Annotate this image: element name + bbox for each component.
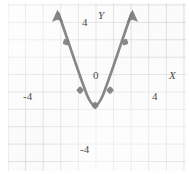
origin-label: 0	[93, 70, 99, 81]
y-tick-label-positive-four: 4	[82, 17, 88, 28]
left-arrowhead-icon	[52, 10, 63, 23]
x-tick-label-negative-four: -4	[23, 91, 32, 102]
graph-figure: Y X 4 0 -4 4 -4	[0, 0, 189, 174]
x-axis-label: X	[169, 70, 176, 81]
y-axis-label: Y	[98, 10, 104, 21]
parabola-curve	[59, 14, 132, 106]
parabola-plot	[0, 0, 189, 174]
x-tick-label-positive-four: 4	[152, 91, 158, 102]
right-arrowhead-icon	[127, 10, 138, 23]
y-tick-label-negative-four: -4	[80, 144, 89, 155]
